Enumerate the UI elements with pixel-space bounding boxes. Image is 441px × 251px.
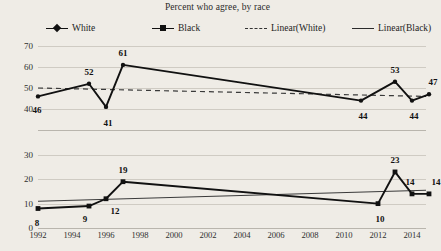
data-point-marker xyxy=(427,92,431,96)
legend-item-linearwhite[interactable]: Linear(White) xyxy=(245,20,325,36)
data-point-label: 8 xyxy=(35,218,40,228)
data-point-label: 14 xyxy=(406,177,415,187)
series-lines xyxy=(38,150,426,234)
x-axis-tick-label: 2006 xyxy=(267,230,284,240)
data-point-label: 44 xyxy=(410,111,419,121)
x-axis-tick-label: 1998 xyxy=(131,230,148,240)
data-point-label: 47 xyxy=(429,77,438,87)
y-axis-tick-label: 70 xyxy=(24,41,33,51)
x-axis-tick-label: 2004 xyxy=(233,230,250,240)
data-point-marker xyxy=(121,179,126,184)
data-point-marker xyxy=(427,191,432,196)
data-point-marker xyxy=(104,105,108,109)
bottom-panel-plot-area: 302010089121910231414 xyxy=(38,150,426,228)
data-point-label: 23 xyxy=(391,155,400,165)
chart-legend: WhiteBlackLinear(White)Linear(Black) xyxy=(40,20,430,36)
data-point-label: 44 xyxy=(359,111,368,121)
y-axis-tick-label: 50 xyxy=(24,83,33,93)
data-point-label: 41 xyxy=(104,118,113,128)
chart-title: Percent who agree, by race xyxy=(0,2,435,12)
data-point-marker xyxy=(87,204,92,209)
data-point-label: 52 xyxy=(85,67,94,77)
data-point-marker xyxy=(393,170,398,175)
legend-swatch-icon xyxy=(46,23,68,33)
y-axis-tick-label: 10 xyxy=(24,199,33,209)
data-point-label: 46 xyxy=(33,105,42,115)
x-axis-tick-label: 2012 xyxy=(369,230,386,240)
data-point-marker xyxy=(393,80,397,84)
data-point-marker xyxy=(121,63,125,67)
data-point-marker xyxy=(359,98,363,102)
y-axis-tick-label: 30 xyxy=(24,150,33,160)
data-point-marker xyxy=(410,191,415,196)
diamond-marker xyxy=(53,24,61,32)
square-marker xyxy=(160,25,166,31)
x-axis-tick-labels: 1992199419961998200020022004200620082010… xyxy=(0,230,435,248)
data-point-label: 61 xyxy=(119,48,128,58)
data-point-label: 9 xyxy=(83,214,88,224)
data-point-label: 14 xyxy=(432,177,441,187)
data-point-marker xyxy=(87,82,91,86)
x-axis-tick-label: 1994 xyxy=(63,230,80,240)
data-point-marker xyxy=(410,98,414,102)
data-point-label: 10 xyxy=(376,214,385,224)
legend-label: Linear(Black) xyxy=(378,23,431,33)
legend-swatch-icon xyxy=(245,23,267,33)
legend-label: White xyxy=(72,23,95,33)
legend-label: Black xyxy=(178,23,200,33)
data-point-marker xyxy=(36,94,40,98)
x-axis-tick-label: 1996 xyxy=(97,230,114,240)
x-axis-tick-label: 2010 xyxy=(335,230,352,240)
data-point-label: 19 xyxy=(119,165,128,175)
data-point-marker xyxy=(104,196,109,201)
data-point-label: 53 xyxy=(391,65,400,75)
series-lines xyxy=(38,46,426,136)
legend-swatch-icon xyxy=(352,23,374,33)
legend-swatch-icon xyxy=(152,23,174,33)
legend-label: Linear(White) xyxy=(271,23,325,33)
y-axis-tick-label: 20 xyxy=(24,174,33,184)
axis-line xyxy=(38,228,426,229)
x-axis-tick-label: 2014 xyxy=(403,230,420,240)
data-point-label: 12 xyxy=(111,206,120,216)
data-point-marker xyxy=(36,206,41,211)
x-axis-tick-label: 2008 xyxy=(301,230,318,240)
axis-line xyxy=(38,130,426,131)
data-point-marker xyxy=(376,201,381,206)
data-line-white xyxy=(38,65,429,107)
y-axis-tick-label: 60 xyxy=(24,62,33,72)
x-axis-tick-label: 2000 xyxy=(165,230,182,240)
legend-item-linearblack[interactable]: Linear(Black) xyxy=(352,20,431,36)
x-axis-tick-label: 2002 xyxy=(199,230,216,240)
legend-item-black[interactable]: Black xyxy=(152,20,200,36)
legend-item-white[interactable]: White xyxy=(46,20,95,36)
top-panel-plot-area: 706050404652416144534447 xyxy=(38,46,426,130)
x-axis-tick-label: 1992 xyxy=(29,230,46,240)
data-line-black xyxy=(38,172,429,209)
